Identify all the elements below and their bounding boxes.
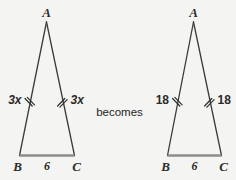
right-triangle-right-leg (194, 22, 222, 156)
right-triangle-vertex-c-label: C (219, 159, 228, 174)
connector-label: becomes (96, 106, 143, 118)
left-triangle-right-leg-label: 3x (71, 93, 86, 107)
right-triangle-apex-label: A (188, 5, 198, 20)
right-triangle: A 18 18 B 6 C (156, 5, 232, 174)
right-triangle-right-leg-label: 18 (218, 93, 232, 107)
right-triangle-left-leg (168, 22, 194, 156)
left-triangle-vertex-c-label: C (72, 159, 81, 174)
left-triangle-right-leg (47, 22, 75, 156)
right-triangle-vertex-b-label: B (160, 159, 170, 174)
left-triangle-apex-label: A (41, 5, 51, 20)
left-triangle: A 3x 3x B 6 C (8, 5, 85, 174)
right-triangle-left-leg-label: 18 (156, 93, 170, 107)
left-triangle-left-leg (20, 22, 47, 156)
geometry-figure: A 3x 3x B 6 C becomes A (0, 0, 236, 180)
left-triangle-base-label: 6 (44, 159, 50, 173)
right-triangle-base-label: 6 (192, 159, 198, 173)
left-triangle-left-leg-label: 3x (8, 93, 23, 107)
left-triangle-vertex-b-label: B (12, 159, 22, 174)
